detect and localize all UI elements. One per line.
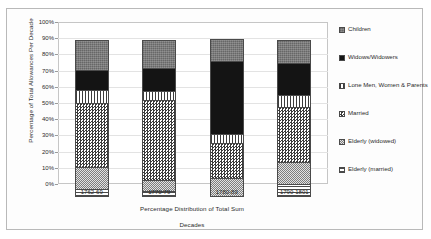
y-axis-tick-label: 50%	[14, 100, 54, 106]
legend-label: Widows/Widowers	[348, 53, 398, 60]
bar-segment[interactable]	[277, 162, 311, 185]
bar-segment[interactable]	[210, 61, 244, 136]
bar-1780-89[interactable]	[210, 39, 244, 197]
y-axis-tick-label: 40%	[14, 116, 54, 122]
gridline	[58, 38, 328, 39]
bar-segment[interactable]	[142, 68, 176, 92]
bar-segment[interactable]	[75, 103, 109, 168]
bar-1770-79[interactable]	[142, 40, 176, 197]
y-axis-tick-mark	[55, 103, 58, 104]
x-axis-title-secondary: Decades	[47, 221, 337, 228]
y-axis-tick-label: 100%	[14, 19, 54, 25]
y-axis-tick-mark	[55, 152, 58, 153]
legend-label: Children	[348, 25, 371, 32]
bar-segment[interactable]	[75, 70, 109, 91]
x-axis-tick-label: 1770-79	[125, 189, 193, 195]
y-axis-tick-mark	[55, 135, 58, 136]
legend-label: Elderly (married)	[348, 165, 393, 172]
bar-segment[interactable]	[210, 143, 244, 179]
legend-swatch-icon	[339, 83, 345, 89]
legend-item[interactable]: Lone Men, Women & Parents	[339, 79, 431, 107]
legend-swatch-icon	[339, 27, 345, 33]
plot-area: 100%90%80%70%60%50%40%30%20%10%0% 1762-6…	[58, 22, 328, 197]
bar-segment[interactable]	[277, 40, 311, 64]
legend-item[interactable]: Married	[339, 107, 431, 135]
y-axis-tick-mark	[55, 38, 58, 39]
x-axis-tick-label: 1762-69	[58, 189, 126, 195]
y-axis-tick-label: 0%	[14, 181, 54, 187]
legend-swatch-icon	[339, 55, 345, 61]
y-axis-tick-mark	[55, 54, 58, 55]
x-axis-tick-label: 1780-89	[193, 189, 261, 195]
x-axis-tick-label: 1790-1801	[260, 189, 328, 195]
legend-swatch-icon	[339, 111, 345, 117]
y-axis-tick-mark	[55, 119, 58, 120]
bar-segment[interactable]	[277, 107, 311, 164]
y-axis-tick-label: 30%	[14, 132, 54, 138]
y-axis-tick-mark	[55, 168, 58, 169]
bar-segment[interactable]	[142, 100, 176, 181]
legend-label: Lone Men, Women & Parents	[348, 81, 428, 88]
bar-segment[interactable]	[75, 167, 109, 190]
legend-label: Married	[348, 109, 369, 116]
y-axis-tick-label: 10%	[14, 165, 54, 171]
y-axis-tick-mark	[55, 184, 58, 185]
legend-swatch-icon	[339, 167, 345, 173]
y-axis-tick-label: 70%	[14, 68, 54, 74]
bar-segment[interactable]	[277, 63, 311, 95]
bar-1762-69[interactable]	[75, 40, 109, 197]
y-axis-tick-label: 80%	[14, 51, 54, 57]
y-axis-tick-label: 60%	[14, 84, 54, 90]
chart-legend: ChildrenWidows/WidowersLone Men, Women &…	[339, 23, 431, 191]
bar-1790-1801[interactable]	[277, 40, 311, 197]
chart-frame: Percentage of Total Allowances Per Decad…	[6, 8, 423, 230]
legend-item[interactable]: Widows/Widowers	[339, 51, 431, 79]
y-axis-tick-label: 20%	[14, 149, 54, 155]
y-axis-tick-mark	[55, 22, 58, 23]
legend-item[interactable]: Children	[339, 23, 431, 51]
legend-swatch-icon	[339, 139, 345, 145]
bar-segment[interactable]	[75, 40, 109, 71]
legend-label: Elderly (widowed)	[348, 137, 396, 144]
y-axis-tick-mark	[55, 87, 58, 88]
bar-segment[interactable]	[210, 39, 244, 62]
y-axis-tick-mark	[55, 71, 58, 72]
y-axis-tick-label: 90%	[14, 35, 54, 41]
legend-item[interactable]: Elderly (married)	[339, 163, 431, 191]
legend-item[interactable]: Elderly (widowed)	[339, 135, 431, 163]
bar-segment[interactable]	[75, 90, 109, 105]
x-axis-title-primary: Percentage Distribution of Total Sum	[47, 205, 337, 212]
bar-segment[interactable]	[142, 40, 176, 69]
